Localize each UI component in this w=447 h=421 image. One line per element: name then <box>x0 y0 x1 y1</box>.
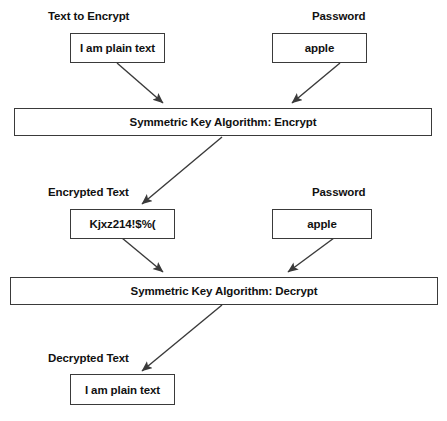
symmetric-key-flow-diagram: Text to Encrypt Password I am plain text… <box>0 0 447 421</box>
arrow-plaintext-to-encrypt <box>117 63 163 103</box>
password-input-box-top[interactable]: apple <box>272 33 367 63</box>
decrypt-algorithm-bar[interactable]: Symmetric Key Algorithm: Decrypt <box>10 277 438 305</box>
arrow-password-to-decrypt <box>288 238 334 272</box>
ciphertext-box[interactable]: Kjxz214!$%( <box>70 209 175 239</box>
caption-text-to-encrypt: Text to Encrypt <box>48 10 129 22</box>
arrow-decrypt-to-plaintext <box>142 305 222 371</box>
caption-encrypted-text: Encrypted Text <box>48 186 129 198</box>
plaintext-output-box[interactable]: I am plain text <box>70 374 175 405</box>
caption-decrypted-text: Decrypted Text <box>48 352 129 364</box>
password-input-box-middle[interactable]: apple <box>272 209 372 239</box>
arrow-password-to-encrypt <box>292 63 340 103</box>
arrow-encrypt-to-ciphertext <box>142 137 222 204</box>
plaintext-input-box[interactable]: I am plain text <box>70 33 165 63</box>
arrow-ciphertext-to-decrypt <box>122 238 163 272</box>
caption-password-middle: Password <box>312 186 366 198</box>
caption-password-top: Password <box>312 10 366 22</box>
encrypt-algorithm-bar[interactable]: Symmetric Key Algorithm: Encrypt <box>14 108 432 136</box>
